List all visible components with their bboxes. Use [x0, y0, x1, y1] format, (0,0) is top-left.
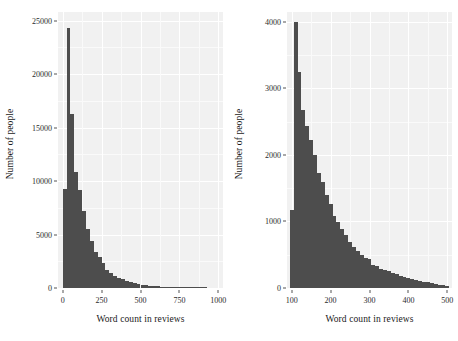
y-tick-mark	[54, 288, 57, 289]
y-tick-mark	[54, 181, 57, 182]
x-axis-ticks: 100200300400500	[287, 290, 452, 314]
y-tick-mark	[283, 154, 286, 155]
y-tick-mark	[54, 234, 57, 235]
y-tick-label: 10000	[32, 177, 52, 186]
x-tick-label: 1000	[210, 296, 226, 305]
x-tick-mark	[447, 290, 448, 293]
gridline-vertical-minor	[389, 12, 390, 288]
subplot-left: Number of people050001000015000200002500…	[0, 0, 229, 341]
x-tick-mark	[291, 290, 292, 293]
gridline-vertical-minor	[428, 12, 429, 288]
plot-panel	[58, 12, 223, 288]
y-tick-label: 0	[277, 284, 281, 293]
y-tick-label: 2000	[265, 150, 281, 159]
x-tick-label: 0	[61, 296, 65, 305]
y-tick-label: 3000	[265, 84, 281, 93]
y-tick-mark	[283, 288, 286, 289]
x-tick-label: 500	[441, 296, 453, 305]
y-tick-mark	[283, 88, 286, 89]
gridline-vertical	[102, 12, 103, 288]
x-tick-mark	[140, 290, 141, 293]
y-tick-mark	[283, 221, 286, 222]
x-tick-label: 300	[364, 296, 376, 305]
histogram-figure: Number of people050001000015000200002500…	[0, 0, 458, 341]
gridline-vertical-minor	[199, 12, 200, 288]
x-tick-mark	[62, 290, 63, 293]
y-axis-ticks: 0500010000150002000025000	[14, 0, 58, 341]
y-tick-mark	[54, 127, 57, 128]
y-axis-ticks: 01000200030004000	[243, 0, 287, 341]
gridline-vertical-minor	[160, 12, 161, 288]
x-tick-label: 100	[286, 296, 298, 305]
x-tick-label: 500	[135, 296, 147, 305]
x-tick-label: 250	[96, 296, 108, 305]
x-tick-mark	[179, 290, 180, 293]
x-tick-mark	[218, 290, 219, 293]
x-tick-mark	[408, 290, 409, 293]
y-tick-label: 4000	[265, 17, 281, 26]
x-tick-mark	[369, 290, 370, 293]
y-tick-label: 15000	[32, 123, 52, 132]
histogram-bar	[203, 287, 207, 288]
x-tick-mark	[101, 290, 102, 293]
gridline-vertical	[370, 12, 371, 288]
y-tick-mark	[54, 20, 57, 21]
x-tick-label: 400	[402, 296, 414, 305]
x-tick-label: 750	[173, 296, 185, 305]
plot-panel	[287, 12, 452, 288]
histogram-bar	[445, 286, 449, 288]
y-tick-mark	[54, 74, 57, 75]
x-tick-mark	[330, 290, 331, 293]
gridline-vertical	[179, 12, 180, 288]
y-tick-label: 5000	[36, 230, 52, 239]
y-tick-label: 0	[48, 284, 52, 293]
y-tick-mark	[283, 21, 286, 22]
gridline-vertical	[218, 12, 219, 288]
y-tick-label: 1000	[265, 217, 281, 226]
gridline-vertical	[408, 12, 409, 288]
gridline-vertical	[141, 12, 142, 288]
x-axis-ticks: 02505007501000	[58, 290, 223, 314]
gridline-vertical	[447, 12, 448, 288]
y-tick-label: 25000	[32, 16, 52, 25]
y-tick-label: 20000	[32, 70, 52, 79]
gridline-vertical-minor	[121, 12, 122, 288]
x-tick-label: 200	[325, 296, 337, 305]
x-axis-title: Word count in reviews	[287, 314, 452, 324]
subplot-right: Number of people010002000300040001002003…	[229, 0, 458, 341]
x-axis-title: Word count in reviews	[58, 314, 223, 324]
